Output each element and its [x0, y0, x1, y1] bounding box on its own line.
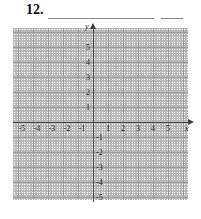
y-tick-label: 5 — [80, 44, 90, 52]
x-tick-label: -5 — [16, 125, 28, 133]
y-tick-label: -4 — [96, 179, 106, 187]
y-tick-label: 1 — [80, 104, 90, 112]
x-tick-label: -3 — [46, 125, 58, 133]
x-tick-label: 3 — [132, 125, 144, 133]
y-axis-label: y — [85, 23, 89, 31]
y-tick-label: 4 — [80, 59, 90, 67]
y-axis-arrow-icon — [90, 23, 96, 29]
y-axis-line — [93, 27, 94, 202]
y-tick-label: -3 — [96, 164, 106, 172]
y-tick-label: -5 — [96, 194, 106, 202]
coordinate-plane: x y -5 -4 -3 -2 -1 1 2 3 4 5 5 4 3 2 1 -… — [0, 24, 201, 219]
x-axis-label: x — [185, 125, 189, 133]
problem-number: 12. — [26, 2, 44, 18]
x-tick-label: 2 — [117, 125, 129, 133]
x-tick-label: 1 — [102, 125, 114, 133]
major-gridlines — [13, 28, 188, 200]
x-tick-label: -2 — [61, 125, 73, 133]
x-tick-label: 4 — [147, 125, 159, 133]
problem-header: 12. — [0, 0, 201, 26]
x-tick-label: 5 — [162, 125, 174, 133]
y-tick-label: 3 — [80, 74, 90, 82]
answer-blank-long[interactable] — [48, 18, 154, 19]
y-tick-label: -2 — [96, 149, 106, 157]
y-tick-label: -1 — [96, 134, 106, 142]
grid-background — [13, 28, 188, 200]
x-tick-label: -4 — [31, 125, 43, 133]
answer-blank-short[interactable] — [161, 18, 183, 19]
y-tick-label: 2 — [80, 89, 90, 97]
x-axis-line — [13, 122, 189, 123]
x-tick-label: -1 — [76, 125, 88, 133]
